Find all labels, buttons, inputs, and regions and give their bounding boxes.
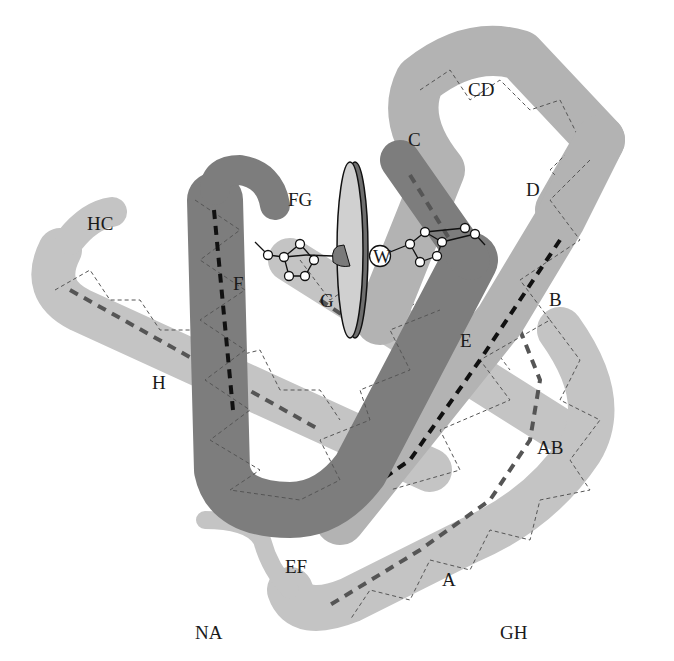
label-c: C <box>408 129 421 150</box>
label-fg: FG <box>288 189 313 210</box>
label-w: W <box>373 246 391 267</box>
label-a: A <box>442 569 456 590</box>
label-e: E <box>460 330 472 351</box>
label-d: D <box>526 179 540 200</box>
label-b: B <box>549 289 562 310</box>
ribbon-svg: W CD C D FG HC F G B E H AB EF A NA GH <box>0 0 674 661</box>
globin-fold-diagram: W CD C D FG HC F G B E H AB EF A NA GH <box>0 0 674 661</box>
label-gh: GH <box>500 622 528 643</box>
label-f: F <box>233 273 244 294</box>
label-cd: CD <box>468 79 494 100</box>
label-hc: HC <box>87 213 113 234</box>
label-h: H <box>152 372 166 393</box>
label-ef: EF <box>285 556 307 577</box>
label-na: NA <box>195 622 223 643</box>
label-g: G <box>320 290 334 311</box>
label-ab: AB <box>537 437 563 458</box>
